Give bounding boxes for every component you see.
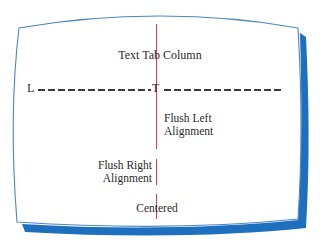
- tab-column-line-flush-right: [156, 159, 157, 185]
- text-tab-column-label: Text Tab Column: [117, 49, 203, 62]
- flush-left-line2: Alignment: [164, 125, 213, 138]
- ruler-dashes-left: [38, 89, 151, 91]
- centered-label: Centered: [126, 202, 188, 215]
- flush-left-label: Flush Left Alignment: [164, 112, 213, 138]
- ruler-left-marker: L: [27, 81, 34, 95]
- flush-right-label: Flush Right Alignment: [80, 159, 152, 185]
- ruler-tab-marker: T: [152, 81, 159, 95]
- flush-right-line1: Flush Right: [80, 159, 152, 172]
- ruler-dashes-right: [164, 89, 282, 91]
- flush-left-line1: Flush Left: [164, 112, 213, 125]
- flush-right-line2: Alignment: [80, 172, 152, 185]
